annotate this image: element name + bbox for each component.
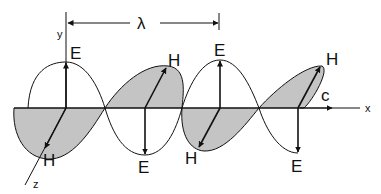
wavelength-label: λ [137,14,146,33]
e-label-2: E [138,158,149,177]
h-lobe-3 [182,108,259,151]
y-axis-label: y [57,28,63,40]
em-wave-diagram: x c y z λ E E E E H H H H [0,0,381,194]
x-axis-label: x [365,102,371,114]
h-lobe-2 [105,66,183,108]
h-label-2: H [168,51,180,70]
speed-label: c [321,86,330,105]
e-label-4: E [291,157,302,176]
z-axis-label: z [33,178,39,190]
h-label-3: H [185,149,197,168]
magnetic-field-lobes [14,66,324,159]
h-lobe-4 [259,66,324,108]
h-label-4: H [326,50,338,69]
e-label-3: E [214,41,225,60]
h-label-1: H [43,151,55,170]
h-lobe-1 [14,108,105,159]
e-label-1: E [70,44,81,63]
